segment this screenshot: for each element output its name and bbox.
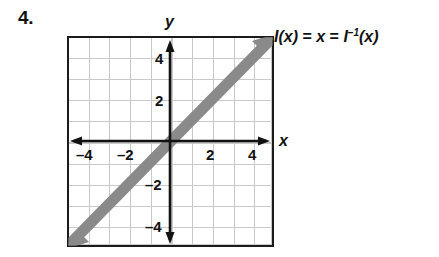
function-label-arg-1: (x)	[278, 28, 298, 45]
x-tick-label-neg2: –2	[117, 147, 134, 162]
function-label-exponent: –1	[348, 27, 359, 38]
y-tick-label-neg4: –4	[145, 219, 162, 234]
function-label: I(x) = x = I–1(x)	[274, 29, 379, 45]
y-axis-label: y	[165, 14, 174, 30]
y-tick-label-pos2: 2	[155, 93, 163, 108]
y-tick-label-neg2: –2	[145, 177, 162, 192]
x-tick-label-pos2: 2	[206, 147, 214, 162]
function-label-equals-1: =	[298, 28, 316, 45]
x-tick-label-pos4: 4	[248, 147, 256, 162]
y-tick-label-pos4: 4	[155, 51, 163, 66]
graph-figure: 4. x y –4 –2	[0, 0, 439, 257]
function-label-equals-2: =	[325, 28, 343, 45]
plot-frame-with-grid	[67, 36, 274, 247]
function-label-arg-2: (x)	[359, 28, 379, 45]
problem-number: 4.	[18, 8, 33, 27]
function-label-variable: x	[316, 28, 325, 45]
x-tick-label-neg4: –4	[76, 147, 93, 162]
x-axis-label: x	[279, 133, 288, 149]
